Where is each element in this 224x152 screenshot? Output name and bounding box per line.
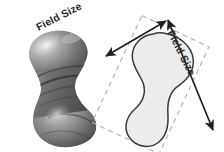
- part-silhouette-outline: [98, 23, 205, 152]
- field-size-illustration: Field Size Field Size: [0, 0, 224, 152]
- silhouette-path: [98, 23, 205, 152]
